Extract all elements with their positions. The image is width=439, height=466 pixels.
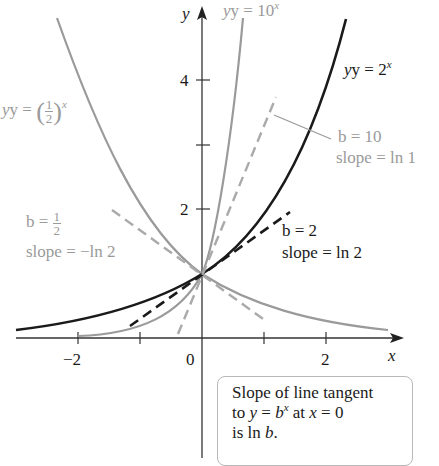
y-axis-label: y: [182, 4, 190, 23]
label-b-half-num: 1: [53, 210, 62, 224]
note-line-1: Slope of line tangent: [232, 383, 412, 403]
label-half-pow-x: yy = (12)x: [2, 98, 67, 125]
y-tick-label-4: 4: [180, 71, 189, 90]
y-tick-label-2: 2: [180, 200, 189, 219]
label-b-half: b = 12: [26, 210, 61, 237]
label-ten-pow-x: yy = 10x: [223, 1, 279, 20]
curve-half-pow-x: [57, 18, 388, 330]
tangent-b-two: [130, 212, 290, 326]
label-b-ten-value: b = 10: [338, 127, 382, 146]
label-two-pow-x: yy = 2x: [344, 60, 392, 79]
label-b-two-slope: slope = ln 2: [282, 243, 362, 262]
x-axis-label: x: [388, 346, 396, 365]
label-two-pow-x-text: y = 2: [352, 60, 387, 79]
label-b-half-slope: slope = −ln 2: [26, 242, 116, 261]
leader-line-b-ten: [274, 115, 331, 139]
label-half-pow-x-prefix: y =: [10, 100, 37, 119]
note-line-2: to y = bx at x = 0: [232, 403, 412, 423]
label-b-half-den: 2: [53, 224, 62, 237]
x-tick-label-neg2: −2: [63, 350, 81, 369]
x-tick-label-2: 2: [321, 350, 330, 369]
label-ten-pow-x-text: y = 10: [231, 1, 275, 20]
curve-two-pow-x: [16, 19, 346, 330]
curve-ten-pow-x: [78, 18, 243, 336]
label-b-two: b = 2: [282, 221, 317, 240]
label-b-ten-slope: slope = ln 1: [336, 148, 416, 167]
note-line-3: is ln b.: [232, 423, 412, 443]
label-two-pow-x-exp: x: [387, 58, 392, 70]
label-half-pow-x-exp: x: [62, 98, 67, 110]
label-b-ten: b = 10: [338, 127, 382, 146]
label-ten-pow-x-exp: x: [274, 0, 279, 11]
y-ticks: [196, 80, 210, 209]
note-box: Slope of line tangent to y = bx at x = 0…: [217, 376, 413, 466]
x-tick-label-0: 0: [186, 350, 195, 369]
label-b-half-prefix: b =: [26, 212, 53, 231]
